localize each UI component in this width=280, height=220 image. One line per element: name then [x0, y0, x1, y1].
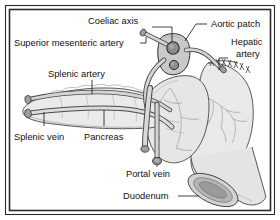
label-duodenum: Duodenum	[123, 191, 169, 201]
label-hepatic-artery-line2: artery	[236, 49, 260, 59]
label-portal-vein: Portal vein	[126, 169, 170, 179]
label-splenic-artery: Splenic artery	[48, 69, 105, 79]
label-splenic-vein: Splenic vein	[14, 132, 64, 142]
label-hepatic-artery-line1: Hepatic	[231, 37, 263, 47]
label-coeliac-axis: Coeliac axis	[88, 16, 138, 26]
label-aortic-patch: Aortic patch	[211, 19, 260, 29]
anatomical-figure: Coeliac axis Aortic patch Superior mesen…	[0, 0, 280, 220]
label-superior-mesenteric-artery: Superior mesenteric artery	[14, 38, 124, 48]
label-pancreas: Pancreas	[84, 132, 124, 142]
